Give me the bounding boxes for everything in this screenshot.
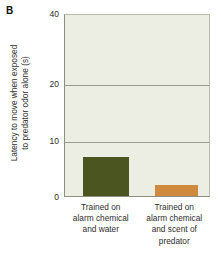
- x-label-2-line-1: Trained on: [138, 202, 212, 213]
- y-axis-title: Latency to move when exposed to predator…: [3, 0, 37, 205]
- x-label-1-line-2: alarm chemical: [64, 213, 138, 224]
- x-axis-tick-labels: Trained onalarm chemicaland water Traine…: [64, 200, 211, 252]
- y-axis-tick-labels: 4020100: [36, 0, 62, 205]
- y-tick-10: 10: [50, 136, 59, 146]
- y-axis-title-line-1: Latency to move when exposed: [9, 44, 20, 161]
- y-axis-title-line-2: to predator odor alone (s): [20, 44, 31, 161]
- x-axis-label-2: Trained onalarm chemicaland scent ofpred…: [138, 200, 212, 252]
- y-tick-40: 40: [50, 9, 59, 19]
- gridline-10: [65, 142, 209, 143]
- y-tick-0: 0: [54, 192, 59, 202]
- bar-2: [155, 185, 198, 196]
- x-axis-label-1: Trained onalarm chemicaland water: [64, 200, 138, 252]
- bar-1: [83, 157, 129, 196]
- gridline-20: [65, 85, 209, 86]
- y-tick-20: 20: [50, 79, 59, 89]
- plot-area: [64, 14, 210, 197]
- x-label-1-line-3: and water: [64, 224, 138, 235]
- x-label-2-line-3: and scent of: [138, 224, 212, 235]
- x-label-1-line-1: Trained on: [64, 202, 138, 213]
- x-label-2-line-4: predator: [138, 236, 212, 247]
- x-label-2-line-2: alarm chemical: [138, 213, 212, 224]
